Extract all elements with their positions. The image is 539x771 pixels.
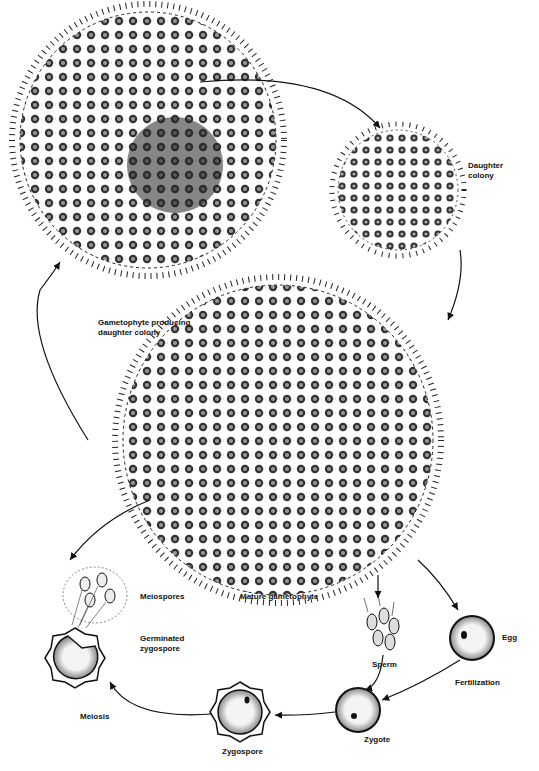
label-sperm: Sperm xyxy=(372,660,397,670)
life-cycle-diagram xyxy=(0,0,539,771)
label-meiosis: Meiosis xyxy=(80,712,109,722)
arrow-to-gametophyte-producing xyxy=(37,262,88,440)
label-egg: Egg xyxy=(502,633,517,643)
daughter-colony xyxy=(332,124,464,256)
zygospore xyxy=(210,682,270,742)
germinated-zygospore xyxy=(45,628,105,688)
label-fertilization: Fertilization xyxy=(455,678,500,688)
zygote xyxy=(336,688,380,732)
label-zygospore: Zygospore xyxy=(222,747,263,757)
label-gametophyte-producing: Gametophyte producing daughter colony xyxy=(98,318,190,338)
label-mature-gametophyte: Mature gametophyte xyxy=(240,592,318,602)
arrow-to-mature-gametophyte xyxy=(448,250,461,320)
sperm-cluster xyxy=(364,594,399,650)
label-zygote: Zygote xyxy=(364,735,390,745)
arrow-from-germinated xyxy=(70,500,150,560)
arrow-zygospore-to-germinated xyxy=(110,682,212,715)
gametophyte-producing-colony xyxy=(12,4,284,276)
meiospores xyxy=(63,567,127,628)
arrow-to-egg xyxy=(418,560,458,610)
label-daughter-colony: Daughter colony xyxy=(468,161,503,181)
label-germinated-zygospore: Germinated zygospore xyxy=(140,634,184,654)
arrow-zygote-to-zygospore xyxy=(275,712,335,715)
label-meiospores: Meiospores xyxy=(140,592,184,602)
egg xyxy=(450,616,494,660)
